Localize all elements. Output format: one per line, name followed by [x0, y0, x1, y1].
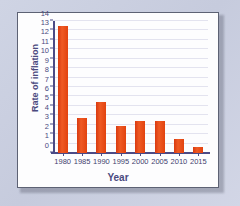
x-tick-label: 1980 [54, 158, 71, 166]
y-axis-title: Rate of inflation [30, 23, 40, 133]
y-tick-label: 12 [41, 29, 49, 37]
x-tick-mark [63, 153, 64, 156]
y-tick-label: 4 [45, 104, 49, 112]
bar [96, 102, 106, 153]
x-tick-label: 1995 [112, 158, 129, 166]
bar [135, 121, 145, 153]
x-tick-mark [101, 153, 102, 156]
y-tick-label: 0 [45, 142, 49, 150]
y-tick-label: 2 [45, 123, 49, 131]
bar [58, 26, 68, 153]
x-tick-label: 2015 [190, 158, 207, 166]
x-tick-mark [121, 153, 122, 156]
y-tick-label: 6 [45, 85, 49, 93]
y-tick-label: 10 [41, 47, 49, 55]
y-tick-label: 3 [45, 113, 49, 121]
x-tick-mark [179, 153, 180, 156]
x-tick-label: 2010 [171, 158, 188, 166]
figure-root: Rate of inflation 01234567891011121314 1… [0, 0, 240, 206]
y-tick-label: 1 [45, 132, 49, 140]
x-tick-mark [82, 153, 83, 156]
y-tick-label: 8 [45, 66, 49, 74]
x-tick-mark [160, 153, 161, 156]
x-tick-label: 2000 [132, 158, 149, 166]
x-tick-mark [198, 153, 199, 156]
y-tick-label: 13 [41, 19, 49, 27]
y-tick-label: 9 [45, 57, 49, 65]
y-tick-label: 11 [41, 38, 49, 46]
plot-wrapper: Rate of inflation 01234567891011121314 1… [18, 13, 218, 187]
bar [77, 118, 87, 153]
y-tick-label: 5 [45, 95, 49, 103]
bar [155, 121, 165, 153]
x-tick-mark [140, 153, 141, 156]
y-tick-label: 14 [41, 10, 49, 18]
x-tick-label: 1990 [93, 158, 110, 166]
plot-area: 01234567891011121314 1980198519901995200… [53, 21, 208, 153]
bar [116, 126, 126, 153]
bar [174, 139, 184, 153]
x-tick-label: 2005 [151, 158, 168, 166]
x-axis-title: Year [18, 172, 218, 183]
chart-panel: Rate of inflation 01234567891011121314 1… [17, 12, 219, 188]
x-tick-label: 1985 [74, 158, 91, 166]
bar-series [53, 21, 208, 153]
y-tick-label: 7 [45, 76, 49, 84]
